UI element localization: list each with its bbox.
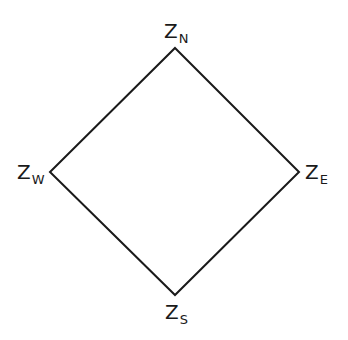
diamond-shape	[50, 48, 299, 295]
label-west-main: Z	[17, 160, 31, 184]
label-east: ZE	[305, 162, 328, 182]
label-north-subscript: N	[179, 31, 189, 46]
label-west-subscript: W	[32, 172, 45, 187]
label-south-subscript: S	[180, 312, 188, 327]
label-south: ZS	[165, 302, 188, 322]
label-north-main: Z	[164, 19, 178, 43]
label-east-subscript: E	[320, 172, 328, 187]
label-east-main: Z	[305, 160, 319, 184]
label-west: ZW	[17, 162, 45, 182]
diamond-diagram	[0, 0, 348, 340]
label-south-main: Z	[165, 300, 179, 324]
label-north: ZN	[164, 21, 188, 41]
